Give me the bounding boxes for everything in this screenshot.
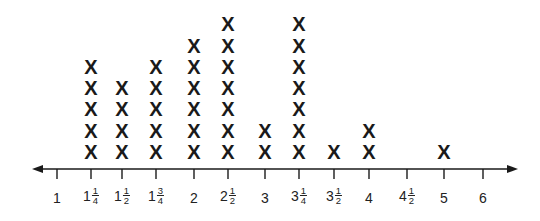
tick-label: 4 bbox=[365, 190, 373, 206]
tick-label-whole: 4 bbox=[399, 188, 407, 204]
x-mark: X bbox=[219, 79, 237, 97]
tick-label-fraction: 14 bbox=[92, 186, 99, 205]
line-plot: XXXXXXXXXXXXXXXXXXXXXXXXXXXXXXXXXXXXXXXX… bbox=[0, 0, 540, 221]
x-mark: X bbox=[435, 143, 453, 161]
x-mark: X bbox=[147, 79, 165, 97]
tick-label-whole: 6 bbox=[479, 190, 487, 206]
tick-label-whole: 1 bbox=[114, 188, 122, 204]
tick-label-fraction: 34 bbox=[157, 186, 164, 205]
tick-label-whole: 1 bbox=[148, 188, 156, 204]
x-mark: X bbox=[113, 143, 131, 161]
x-mark: X bbox=[147, 58, 165, 76]
x-mark: X bbox=[219, 37, 237, 55]
tick-label: 5 bbox=[440, 190, 448, 206]
x-mark: X bbox=[256, 143, 274, 161]
x-mark: X bbox=[82, 58, 100, 76]
x-mark: X bbox=[290, 100, 308, 118]
x-mark: X bbox=[185, 122, 203, 140]
tick-label-fraction: 12 bbox=[229, 186, 236, 205]
tick-label: 412 bbox=[399, 186, 415, 205]
x-mark: X bbox=[185, 79, 203, 97]
x-mark: X bbox=[113, 122, 131, 140]
x-mark: X bbox=[290, 37, 308, 55]
x-mark: X bbox=[219, 58, 237, 76]
tick-label: 6 bbox=[479, 190, 487, 206]
x-mark: X bbox=[185, 100, 203, 118]
tick-label-whole: 3 bbox=[261, 190, 269, 206]
x-mark: X bbox=[360, 122, 378, 140]
x-mark: X bbox=[82, 122, 100, 140]
tick-label: 312 bbox=[326, 186, 342, 205]
tick-label: 2 bbox=[190, 190, 198, 206]
x-mark: X bbox=[290, 15, 308, 33]
x-mark: X bbox=[185, 37, 203, 55]
x-mark: X bbox=[113, 100, 131, 118]
tick-label: 1 bbox=[53, 190, 61, 206]
arrow-left-icon bbox=[32, 165, 43, 173]
tick-label-whole: 2 bbox=[190, 190, 198, 206]
x-mark: X bbox=[325, 143, 343, 161]
x-mark: X bbox=[147, 100, 165, 118]
tick-label-whole: 3 bbox=[291, 188, 299, 204]
tick-label: 314 bbox=[291, 186, 307, 205]
tick-label-fraction: 14 bbox=[300, 186, 307, 205]
x-mark: X bbox=[82, 79, 100, 97]
x-mark: X bbox=[290, 79, 308, 97]
tick-label-whole: 2 bbox=[220, 188, 228, 204]
tick-label-whole: 3 bbox=[326, 188, 334, 204]
x-mark: X bbox=[290, 143, 308, 161]
tick-label-fraction: 12 bbox=[408, 186, 415, 205]
x-mark: X bbox=[290, 122, 308, 140]
arrow-right-icon bbox=[507, 165, 518, 173]
x-mark: X bbox=[256, 122, 274, 140]
x-mark: X bbox=[82, 100, 100, 118]
tick-label-whole: 1 bbox=[83, 188, 91, 204]
tick-label-fraction: 12 bbox=[123, 186, 130, 205]
x-mark: X bbox=[185, 58, 203, 76]
tick-label: 134 bbox=[148, 186, 164, 205]
tick-label-whole: 4 bbox=[365, 190, 373, 206]
tick-label: 3 bbox=[261, 190, 269, 206]
x-mark: X bbox=[219, 100, 237, 118]
x-mark: X bbox=[82, 143, 100, 161]
tick-label: 112 bbox=[114, 186, 130, 205]
x-mark: X bbox=[219, 122, 237, 140]
tick-label-whole: 1 bbox=[53, 190, 61, 206]
x-mark: X bbox=[219, 143, 237, 161]
x-mark: X bbox=[219, 15, 237, 33]
x-mark: X bbox=[147, 143, 165, 161]
x-mark: X bbox=[113, 79, 131, 97]
tick-label-fraction: 12 bbox=[335, 186, 342, 205]
tick-label: 212 bbox=[220, 186, 236, 205]
tick-label-whole: 5 bbox=[440, 190, 448, 206]
x-mark: X bbox=[290, 58, 308, 76]
x-mark: X bbox=[185, 143, 203, 161]
x-mark: X bbox=[147, 122, 165, 140]
tick-label: 114 bbox=[83, 186, 99, 205]
x-mark: X bbox=[360, 143, 378, 161]
number-line bbox=[0, 0, 540, 221]
